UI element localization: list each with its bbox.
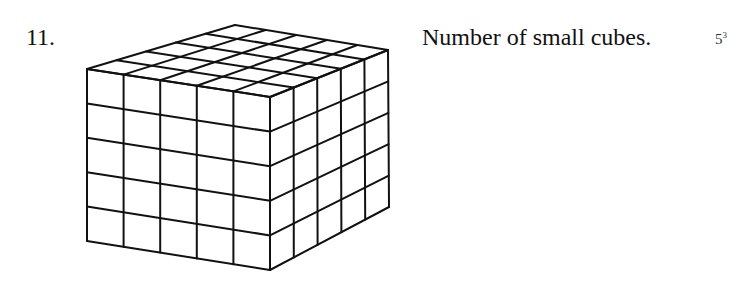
cube-figure — [0, 0, 751, 285]
